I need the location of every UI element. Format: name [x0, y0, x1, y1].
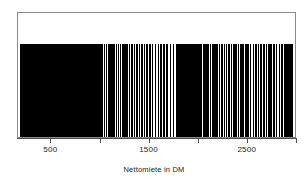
rug-tick [253, 44, 255, 138]
rug-tick [141, 44, 143, 138]
rug-tick [139, 44, 141, 138]
rug-tick [235, 44, 237, 138]
x-axis-tick-label: 2500 [237, 145, 256, 154]
rug-tick [240, 44, 242, 138]
rug-tick [166, 44, 168, 138]
rug-tick [291, 44, 293, 138]
rug-tick [226, 44, 228, 138]
rug-tick [263, 44, 265, 138]
rug-tick [260, 44, 262, 138]
rug-tick [255, 44, 257, 138]
rug-tick [281, 44, 283, 138]
rug-tick [144, 44, 146, 138]
rug-tick [173, 44, 175, 138]
rug-tick [216, 44, 218, 138]
rug-tick [134, 44, 136, 138]
rug-tick [170, 44, 172, 138]
rug-strip [18, 44, 295, 138]
x-axis-line [17, 138, 296, 139]
rug-tick [136, 44, 138, 138]
rug-tick [228, 44, 230, 138]
rug-tick [210, 44, 212, 138]
rug-tick [273, 44, 275, 138]
rug-tick [219, 44, 221, 138]
rug-tick [160, 44, 162, 138]
rug-tick [242, 44, 244, 138]
x-axis-tick [198, 138, 199, 143]
rug-tick [279, 44, 281, 138]
x-axis-tick-label: 1500 [139, 145, 158, 154]
x-axis-tick [100, 138, 101, 143]
rug-tick [131, 44, 133, 138]
rug-tick [247, 44, 249, 138]
rug-tick [146, 44, 148, 138]
x-axis-tick [296, 138, 297, 143]
rug-tick [149, 44, 151, 138]
x-axis-tick [50, 138, 51, 143]
x-axis-tick [149, 138, 150, 143]
rug-tick [152, 44, 154, 138]
rug-tick [258, 44, 260, 138]
rug-tick [245, 44, 247, 138]
rug-tick [276, 44, 278, 138]
rug-tick [270, 44, 272, 138]
rug-plot-figure: 50015002500 Nettomiete in DM [0, 0, 308, 183]
x-axis-title: Nettomiete in DM [0, 165, 308, 174]
rug-tick [126, 44, 128, 138]
rug-tick [163, 44, 165, 138]
rug-tick [155, 44, 157, 138]
rug-tick [129, 44, 131, 138]
rug-tick [250, 44, 252, 138]
x-axis-tick [247, 138, 248, 143]
rug-tick [238, 44, 240, 138]
plot-frame [17, 12, 296, 138]
rug-tick [158, 44, 160, 138]
rug-tick [268, 44, 270, 138]
rug-tick [266, 44, 268, 138]
x-axis-tick-label: 500 [43, 145, 57, 154]
